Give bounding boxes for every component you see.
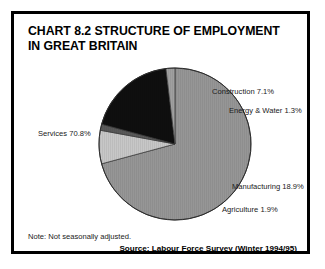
chart-source: Source: Labour Force Survey (Winter 1994… xyxy=(119,244,297,253)
pie-chart-plot: Construction 7.1% Energy & Water 1.3% Se… xyxy=(14,14,307,251)
slice-label-agriculture: Agriculture 1.9% xyxy=(222,205,278,214)
chart-note: Note: Not seasonally adjusted. xyxy=(28,232,131,241)
slice-label-energy-water: Energy & Water 1.3% xyxy=(229,106,302,115)
slice-label-construction: Construction 7.1% xyxy=(212,87,274,96)
slice-label-manufacturing: Manufacturing 18.9% xyxy=(232,182,304,191)
slice-label-services: Services 70.8% xyxy=(38,129,91,138)
chart-figure: CHART 8.2 STRUCTURE OF EMPLOYMENT IN GRE… xyxy=(11,11,310,254)
